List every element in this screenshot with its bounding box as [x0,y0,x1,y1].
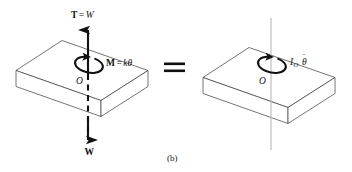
angular-accel-symbol: ¨θ [302,58,307,68]
tension-operator: = [77,10,85,20]
inertia-subscript: O [293,61,298,69]
figure-canvas [0,0,352,172]
moment-label: M=kθ [106,59,132,69]
double-dot-accent: ¨ [303,53,306,61]
equals-sign-glyph [164,63,185,73]
figure-container: T=W M=kθ O W IO ¨θ O (b) [0,0,352,172]
figure-caption: (b) [167,154,178,163]
moment-symbol: M [106,58,115,68]
weight-label: W [85,148,95,158]
tension-value: W [86,10,94,20]
tension-label: T=W [71,11,94,21]
kinetic-plate [203,48,335,124]
kinetic-origin-label: O [259,77,266,87]
inertia-label: IO ¨θ [290,58,307,69]
fbd-origin-label: O [76,77,83,87]
moment-angle: θ [128,58,133,68]
